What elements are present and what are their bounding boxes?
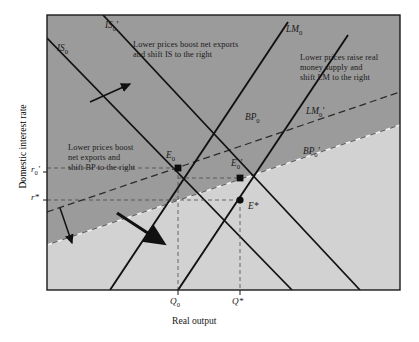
annotation-bp-shift-line3: shift BP to the right: [68, 163, 180, 173]
xtick-label-q-star: Q*: [232, 296, 243, 309]
xtick-label-q0: Q0: [170, 296, 180, 309]
is-lm-bp-figure: IS0 IS0′ LM0 LM0′ BP0 BP0′ E0 E0′ E* Low…: [0, 0, 419, 342]
ytick-label-r-star: r*: [31, 192, 39, 205]
curve-label-bp0-prime: BP0′: [303, 146, 320, 159]
curve-label-is0: IS0: [57, 43, 68, 56]
annotation-lm-shift-line2: money supply and: [300, 63, 412, 73]
annotation-lm-shift: Lower prices raise real money supply and…: [300, 53, 412, 83]
equilibrium-label-e0-prime: E0′: [231, 158, 242, 171]
curve-label-bp0: BP0: [245, 112, 260, 125]
y-axis-title: Domestic interest rate: [17, 87, 28, 207]
annotation-bp-shift-line2: net exports and: [68, 153, 180, 163]
x-axis-title: Real output: [172, 315, 217, 327]
equilibrium-label-e-star: E*: [248, 201, 258, 214]
annotation-is-shift-line1: Lower prices boost net exports: [133, 40, 293, 50]
ytick-label-r0-prime: r0′: [31, 164, 40, 177]
point-e-star: [236, 196, 243, 203]
annotation-lm-shift-line3: shift LM to the right: [300, 73, 412, 83]
annotation-is-shift: Lower prices boost net exports and shift…: [133, 40, 293, 60]
annotation-bp-shift-line1: Lower prices boost: [68, 143, 180, 153]
annotation-bp-shift: Lower prices boost net exports and shift…: [68, 143, 180, 173]
annotation-is-shift-line2: and shift IS to the right: [133, 50, 293, 60]
curve-label-lm0-prime: LM0′: [306, 106, 324, 119]
curve-label-lm0: LM0: [286, 24, 302, 37]
annotation-lm-shift-line1: Lower prices raise real: [300, 53, 412, 63]
point-e0-prime: [237, 175, 244, 182]
curve-label-is0-prime: IS0′: [105, 20, 118, 33]
